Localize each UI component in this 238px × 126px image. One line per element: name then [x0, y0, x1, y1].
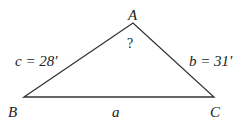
vertex-c-label: C: [210, 105, 220, 120]
vertex-a-label: A: [128, 8, 137, 23]
side-a-label: a: [112, 105, 120, 120]
side-b-label: b = 31': [189, 54, 232, 69]
vertex-b-label: B: [8, 105, 17, 120]
side-c-label: c = 28': [15, 54, 58, 69]
angle-a-unknown: ?: [127, 37, 133, 51]
